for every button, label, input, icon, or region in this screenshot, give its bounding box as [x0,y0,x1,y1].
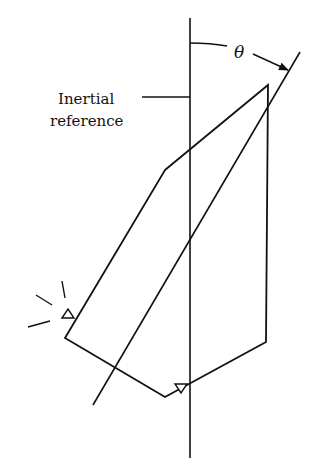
sensor-triangle-icon [175,384,187,393]
sensor-triangle-icon [62,309,74,318]
body-axis-line [93,52,300,405]
angle-label: θ [234,42,244,62]
diagram-svg: θ Inertial reference [0,0,319,470]
reference-label-line1: Inertial [58,90,114,108]
light-rays-icon [28,281,65,327]
reference-label-line2: reference [50,112,124,130]
body-outline [65,85,268,397]
angle-arc [190,43,227,46]
angle-arrow [253,54,288,70]
diagram-canvas: θ Inertial reference [0,0,319,470]
